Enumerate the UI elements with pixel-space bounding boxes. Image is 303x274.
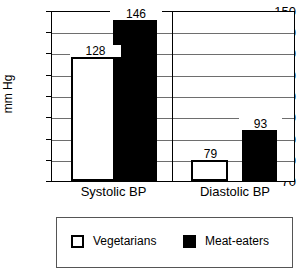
bar-value-systolic-vegetarians: 128 [70,45,121,57]
bar-diastolic-vegetarians [191,160,228,181]
bar-value-diastolic-meat-eaters: 93 [239,118,282,130]
legend-item-meat-eaters: Meat-eaters [183,235,269,248]
legend-item-vegetarians: Vegetarians [71,235,156,248]
bar-value-diastolic-vegetarians: 79 [189,148,232,160]
plot-area: 128 146 79 93 [51,11,295,182]
legend-swatch-meat-eaters [183,235,196,248]
group-divider [172,12,173,181]
bar-value-systolic-meat-eaters: 146 [110,8,162,20]
chart-figure: mm Hg 150 140 130 120 110 100 90 80 70 1… [0,0,303,274]
chart-legend: Vegetarians Meat-eaters [56,217,293,268]
bar-systolic-meat-eaters [113,19,157,181]
x-category-label-systolic: Systolic BP [61,185,166,199]
legend-swatch-vegetarians [71,235,84,248]
gridline-140 [52,33,294,34]
x-category-label-diastolic: Diastolic BP [180,185,290,199]
bar-diastolic-meat-eaters [242,130,277,181]
legend-label-meat-eaters: Meat-eaters [205,235,269,248]
bar-systolic-vegetarians [71,57,118,181]
y-axis-title: mm Hg [1,62,15,126]
legend-label-vegetarians: Vegetarians [93,235,156,248]
